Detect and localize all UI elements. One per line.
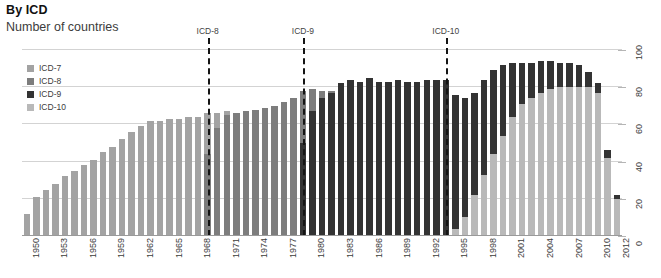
bar-segment-icd-7 xyxy=(138,126,144,236)
y-axis-tickmark-0 xyxy=(618,236,626,237)
bar-column[interactable] xyxy=(109,147,115,236)
x-axis-tick-1977: 1977 xyxy=(288,238,298,258)
bar-column[interactable] xyxy=(595,83,601,236)
bar-column[interactable] xyxy=(500,65,506,236)
bar-column[interactable] xyxy=(452,95,458,236)
bar-column[interactable] xyxy=(528,63,534,236)
bar-segment-icd-9 xyxy=(424,80,430,236)
bar-segment-icd-10 xyxy=(585,87,591,236)
bar-column[interactable] xyxy=(309,89,315,236)
bar-column[interactable] xyxy=(71,171,77,236)
x-axis-tick-2010: 2010 xyxy=(602,238,612,258)
bar-column[interactable] xyxy=(481,80,487,236)
icd-marker-line-icd-8 xyxy=(208,38,210,236)
bar-column[interactable] xyxy=(385,82,391,236)
bar-column[interactable] xyxy=(585,72,591,236)
bar-column[interactable] xyxy=(271,106,277,236)
bar-column[interactable] xyxy=(214,113,220,236)
y-axis-tick-20: 20 xyxy=(634,199,644,209)
bar-column[interactable] xyxy=(33,197,39,236)
bar-column[interactable] xyxy=(376,82,382,236)
x-axis-tick-1962: 1962 xyxy=(145,238,155,258)
bar-column[interactable] xyxy=(519,63,525,236)
x-axis-tick-1995: 1995 xyxy=(459,238,469,258)
bar-column[interactable] xyxy=(128,132,134,236)
bar-column[interactable] xyxy=(404,82,410,236)
bar-column[interactable] xyxy=(576,65,582,236)
legend-label: ICD-9 xyxy=(39,88,61,101)
bar-segment-icd-10 xyxy=(576,87,582,236)
bar-column[interactable] xyxy=(509,63,515,236)
bar-column[interactable] xyxy=(614,195,620,236)
legend-swatch-icd-8 xyxy=(27,78,34,85)
bar-segment-icd-9 xyxy=(528,63,534,98)
bar-column[interactable] xyxy=(176,119,182,236)
bar-column[interactable] xyxy=(62,176,68,236)
bar-segment-icd-7 xyxy=(43,190,49,237)
bar-column[interactable] xyxy=(395,80,401,236)
bar-segment-icd-8 xyxy=(243,111,249,236)
bar-column[interactable] xyxy=(557,63,563,236)
bar-column[interactable] xyxy=(138,126,144,236)
bar-column[interactable] xyxy=(357,82,363,236)
bar-column[interactable] xyxy=(157,121,163,236)
bar-column[interactable] xyxy=(604,150,610,236)
bar-column[interactable] xyxy=(366,78,372,236)
bar-column[interactable] xyxy=(338,83,344,236)
bar-column[interactable] xyxy=(233,113,239,236)
bar-column[interactable] xyxy=(185,117,191,236)
bar-column[interactable] xyxy=(462,98,468,236)
bar-column[interactable] xyxy=(24,214,30,236)
bar-column[interactable] xyxy=(81,165,87,236)
bar-column[interactable] xyxy=(262,108,268,236)
bar-segment-icd-9 xyxy=(366,78,372,236)
bar-column[interactable] xyxy=(166,119,172,236)
legend-item-icd-9[interactable]: ICD-9 xyxy=(27,88,66,101)
bar-segment-icd-9 xyxy=(462,98,468,217)
bar-column[interactable] xyxy=(490,70,496,236)
bar-segment-icd-9 xyxy=(547,61,553,89)
bar-column[interactable] xyxy=(281,102,287,236)
bar-segment-icd-10 xyxy=(604,158,610,236)
bar-segment-icd-9 xyxy=(585,72,591,87)
bar-segment-icd-7 xyxy=(176,119,182,236)
bar-column[interactable] xyxy=(243,111,249,236)
x-axis-tick-1983: 1983 xyxy=(345,238,355,258)
bar-column[interactable] xyxy=(90,160,96,236)
bar-segment-icd-7 xyxy=(62,176,68,236)
y-axis-tickmark-100 xyxy=(618,50,626,51)
x-axis-tick-1998: 1998 xyxy=(488,238,498,258)
bar-column[interactable] xyxy=(328,91,334,236)
y-axis-tick-100: 100 xyxy=(634,45,644,60)
legend-item-icd-7[interactable]: ICD-7 xyxy=(27,62,66,75)
bar-column[interactable] xyxy=(100,152,106,236)
bar-column[interactable] xyxy=(252,110,258,236)
bar-column[interactable] xyxy=(547,61,553,236)
bar-column[interactable] xyxy=(147,121,153,236)
legend-label: ICD-10 xyxy=(39,101,66,114)
bar-column[interactable] xyxy=(347,80,353,236)
legend-item-icd-8[interactable]: ICD-8 xyxy=(27,75,66,88)
bar-column[interactable] xyxy=(319,91,325,236)
bar-segment-icd-9 xyxy=(557,63,563,87)
x-axis-tick-1959: 1959 xyxy=(116,238,126,258)
bar-column[interactable] xyxy=(52,184,58,236)
bar-column[interactable] xyxy=(224,111,230,236)
bar-segment-icd-8 xyxy=(233,113,239,236)
bar-segment-icd-8 xyxy=(319,91,325,98)
legend-label: ICD-7 xyxy=(39,62,61,75)
bar-column[interactable] xyxy=(43,190,49,237)
legend-swatch-icd-9 xyxy=(27,91,34,98)
bar-segment-icd-10 xyxy=(471,195,477,236)
x-axis-tick-1950: 1950 xyxy=(31,238,41,258)
bar-column[interactable] xyxy=(424,80,430,236)
bar-column[interactable] xyxy=(195,117,201,236)
bar-column[interactable] xyxy=(566,63,572,236)
bar-column[interactable] xyxy=(119,139,125,236)
bar-column[interactable] xyxy=(471,93,477,236)
bar-column[interactable] xyxy=(414,82,420,236)
legend-item-icd-10[interactable]: ICD-10 xyxy=(27,101,66,114)
bar-column[interactable] xyxy=(290,98,296,236)
bar-column[interactable] xyxy=(538,61,544,236)
bar-column[interactable] xyxy=(433,80,439,236)
